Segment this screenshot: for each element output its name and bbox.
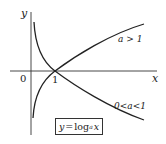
formula-equals: = xyxy=(65,121,73,132)
formula-base: a xyxy=(89,123,93,130)
origin-label: 0 xyxy=(20,74,26,84)
formula-func: log xyxy=(74,121,89,132)
curve-label-0-lt-a-lt-1: 0<a<1 xyxy=(114,102,146,111)
tick-label-one: 1 xyxy=(52,75,58,85)
formula-box: y = loga x xyxy=(55,118,103,135)
log-function-diagram: y 0 1 x a > 1 0<a<1 y = loga x xyxy=(0,0,166,144)
x-axis-label: x xyxy=(152,73,158,84)
curve-label-a-gt-1: a > 1 xyxy=(118,35,142,44)
formula-lhs: y xyxy=(59,121,64,132)
formula-arg: x xyxy=(94,121,99,132)
y-axis-label: y xyxy=(21,8,27,19)
